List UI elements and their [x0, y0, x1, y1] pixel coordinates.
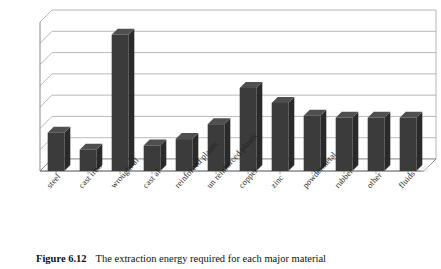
x-tick-label: wrought al — [109, 156, 141, 190]
bar-chart: 010203040506070 — [0, 0, 441, 182]
x-tick-label: other — [365, 171, 384, 190]
x-tick-label: fluids — [397, 169, 417, 190]
x-tick-label: steel — [45, 172, 62, 190]
x-tick-label: copper — [237, 166, 260, 190]
bar — [112, 29, 135, 171]
chart-canvas — [0, 0, 441, 182]
scan-artifact — [420, 166, 429, 172]
x-tick-label: cast iron — [77, 162, 104, 190]
x-tick-label: rubber — [333, 167, 355, 190]
figure-caption-number: Figure 6.12 — [36, 253, 87, 264]
x-tick-label: zinc — [269, 173, 285, 190]
figure-caption: Figure 6.12The extraction energy require… — [36, 252, 436, 265]
bar — [240, 82, 263, 171]
y-axis-tick-labels: 010203040506070 — [0, 0, 24, 182]
x-axis-tick-labels: steelcast ironwrought alcast alreinforce… — [0, 160, 441, 250]
figure-container: 010203040506070 steelcast ironwrought al… — [0, 0, 441, 269]
figure-caption-text: The extraction energy required for each … — [96, 253, 326, 264]
x-tick-label: cast al — [141, 168, 163, 191]
